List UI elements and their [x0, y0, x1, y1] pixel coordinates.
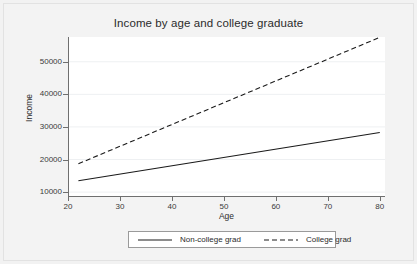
x-tick-mark	[328, 196, 329, 201]
x-tick-label: 20	[53, 202, 83, 211]
y-tick-mark	[63, 62, 68, 63]
y-tick-label: 30000	[40, 122, 62, 131]
x-axis-line	[68, 196, 385, 197]
y-tick-mark	[63, 192, 68, 193]
x-tick-label: 70	[313, 202, 343, 211]
x-tick-mark	[120, 196, 121, 201]
y-axis-line	[68, 37, 69, 197]
x-tick-mark	[68, 196, 69, 201]
y-tick-label: 20000	[40, 155, 62, 164]
y-tick-label: 40000	[40, 89, 62, 98]
gridlines-group	[68, 62, 385, 192]
y-tick-label: 50000	[40, 57, 62, 66]
legend-label: College grad	[306, 235, 351, 244]
x-tick-mark	[380, 196, 381, 201]
x-tick-mark	[276, 196, 277, 201]
x-tick-label: 60	[261, 202, 291, 211]
legend-key-solid-line	[137, 235, 173, 245]
y-tick-mark	[63, 94, 68, 95]
legend-entry-college-grad: College grad	[263, 232, 351, 247]
y-tick-mark	[63, 127, 68, 128]
legend-entry-non-college-grad: Non-college grad	[137, 232, 241, 247]
x-axis-title: Age	[68, 211, 385, 221]
x-tick-mark	[172, 196, 173, 201]
chart-legend: Non-college grad College grad	[128, 231, 336, 248]
series-line-college-grad	[78, 37, 379, 163]
x-tick-label: 80	[365, 202, 395, 211]
plot-svg	[68, 37, 385, 196]
chart-title: Income by age and college graduate	[0, 17, 417, 29]
x-tick-label: 40	[157, 202, 187, 211]
x-tick-label: 50	[209, 202, 239, 211]
legend-label: Non-college grad	[180, 235, 241, 244]
legend-key-dashed-line	[263, 235, 299, 245]
x-tick-label: 30	[105, 202, 135, 211]
x-tick-mark	[224, 196, 225, 201]
chart-figure: Income by age and college graduate 10000…	[0, 0, 417, 264]
plot-area	[68, 37, 385, 196]
y-axis-title: Income	[24, 78, 34, 138]
y-tick-label: 10000	[40, 187, 62, 196]
series-line-non-college-grad	[78, 132, 379, 180]
y-tick-mark	[63, 160, 68, 161]
